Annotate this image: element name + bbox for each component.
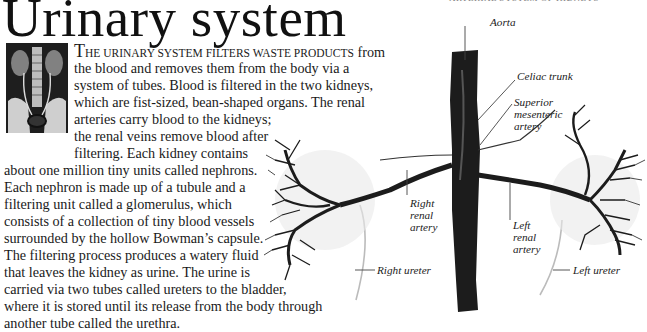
- label-right-renal-1: Right: [410, 197, 434, 209]
- label-superior-mesenteric-3: artery: [514, 120, 541, 132]
- label-superior-mesenteric-2: mesenteric: [514, 108, 562, 120]
- label-right-ureter: Right ureter: [377, 264, 431, 276]
- label-superior-mesenteric-1: Superior: [514, 96, 553, 108]
- label-right-renal-3: artery: [410, 221, 437, 233]
- label-left-ureter: Left ureter: [573, 264, 620, 276]
- label-right-renal-2: renal: [410, 209, 433, 221]
- body-line: another tube called the urethra.: [4, 315, 180, 332]
- label-left-renal-2: renal: [513, 231, 536, 243]
- label-celiac-trunk: Celiac trunk: [517, 70, 573, 82]
- label-aorta: Aorta: [490, 16, 515, 28]
- label-left-renal-3: artery: [513, 243, 540, 255]
- label-left-renal-1: Left: [513, 219, 530, 231]
